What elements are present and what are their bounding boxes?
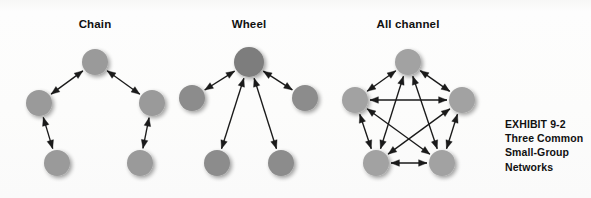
exhibit-figure: ChainWheelAll channel EXHIBIT 9-2Three C…: [0, 0, 591, 198]
caption-exhibit-number: EXHIBIT 9-2: [505, 117, 591, 131]
wheel-node-bottom-left: [204, 150, 230, 176]
wheel-node-bottom-right: [268, 150, 294, 176]
wheel-link-hub-left: [205, 71, 235, 90]
wheel-node-right: [292, 85, 318, 111]
nodes-layer: [26, 47, 475, 176]
allchannel-link-top-bottomleft: [380, 76, 404, 148]
allchannel-node-bottom-left: [363, 150, 389, 176]
allchannel-node-top: [395, 49, 421, 75]
exhibit-caption: EXHIBIT 9-2Three CommonSmall-GroupNetwor…: [505, 117, 591, 174]
wheel-link-hub-bottomleft: [221, 78, 245, 148]
allchannel-link-left-right: [370, 97, 447, 104]
allchannel-link-right-bottomright: [446, 114, 458, 148]
caption-line-1: Three Common: [505, 131, 591, 145]
allchannel-link-left-bottomleft: [359, 114, 371, 149]
chain-node-right: [139, 90, 165, 116]
links-layer: [43, 71, 459, 167]
panel-title-wheel: Wheel: [232, 18, 267, 30]
panel-title-chain: Chain: [79, 18, 112, 30]
panel-title-all-channel: All channel: [377, 18, 440, 30]
chain-node-top: [82, 49, 108, 75]
chain-node-bottom-right: [127, 150, 153, 176]
allchannel-link-top-left: [367, 71, 396, 92]
chain-node-left: [26, 90, 52, 116]
wheel-node-left: [179, 85, 205, 111]
wheel-node-hub: [234, 47, 264, 77]
caption-line-3: Networks: [505, 160, 591, 174]
wheel-link-hub-right: [263, 71, 292, 90]
chain-link-left-top: [51, 71, 83, 94]
allchannel-node-bottom-right: [429, 150, 455, 176]
allchannel-node-left: [342, 87, 368, 113]
allchannel-link-bottomleft-bottomright: [391, 160, 427, 167]
allchannel-link-left-bottomright: [367, 109, 430, 154]
allchannel-link-top-bottomright: [412, 76, 437, 149]
chain-link-bottomleft-left: [43, 117, 54, 148]
chain-link-top-right: [107, 71, 140, 94]
caption-line-2: Small-Group: [505, 145, 591, 159]
chain-link-right-bottomright: [141, 118, 150, 149]
allchannel-node-right: [449, 87, 475, 113]
chain-node-bottom-left: [44, 150, 70, 176]
wheel-link-hub-bottomright: [254, 78, 278, 148]
allchannel-link-top-right: [420, 71, 449, 92]
